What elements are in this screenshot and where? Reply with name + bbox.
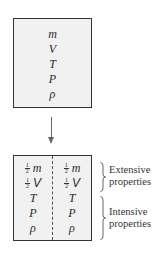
whole-system-box: m V T P ρ bbox=[13, 18, 92, 108]
down-arrow-icon bbox=[48, 137, 54, 144]
right-half-volume: 12V bbox=[64, 176, 80, 191]
down-arrow-shaft bbox=[51, 117, 52, 139]
extensive-label: Extensive properties bbox=[109, 164, 151, 188]
property-density: ρ bbox=[50, 87, 56, 102]
property-volume: V bbox=[49, 42, 56, 57]
fraction-one-half: 12 bbox=[25, 163, 30, 174]
right-half-pressure: P bbox=[68, 206, 75, 221]
left-half-volume: 12V bbox=[25, 176, 41, 191]
divided-system-box: 12m 12V T P ρ 12m 12V T P ρ bbox=[13, 155, 92, 241]
intensive-label: Intensive properties bbox=[109, 206, 151, 230]
whole-system-properties: m V T P ρ bbox=[14, 19, 91, 107]
left-half-density: ρ bbox=[30, 221, 36, 236]
fraction-one-half: 12 bbox=[25, 178, 30, 189]
property-mass: m bbox=[48, 27, 57, 42]
left-half-temperature: T bbox=[30, 191, 37, 206]
intensive-brace-icon bbox=[100, 196, 106, 240]
left-half-pressure: P bbox=[29, 206, 36, 221]
right-half-properties: 12m 12V T P ρ bbox=[53, 156, 91, 240]
property-pressure: P bbox=[49, 72, 56, 87]
property-temperature: T bbox=[49, 57, 56, 72]
right-half-mass: 12m bbox=[64, 161, 81, 176]
left-half-mass: 12m bbox=[25, 161, 42, 176]
left-half-properties: 12m 12V T P ρ bbox=[14, 156, 52, 240]
extensive-brace-icon bbox=[100, 162, 106, 192]
right-half-temperature: T bbox=[69, 191, 76, 206]
right-half-density: ρ bbox=[69, 221, 75, 236]
fraction-one-half: 12 bbox=[64, 178, 69, 189]
fraction-one-half: 12 bbox=[64, 163, 69, 174]
